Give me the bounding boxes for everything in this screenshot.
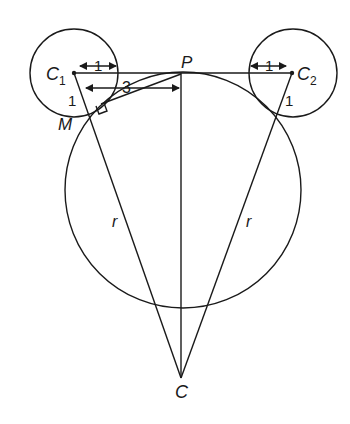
label-m: M bbox=[58, 115, 73, 134]
label-c2-radius-side: 1 bbox=[285, 92, 293, 109]
point-c2 bbox=[290, 71, 294, 75]
geometry-diagram: C1 C2 P C M 1 1 1 1 3 r r bbox=[0, 0, 350, 424]
label-c2-radius-top: 1 bbox=[265, 57, 273, 74]
line-c1-c bbox=[74, 73, 181, 378]
tangent-line-p-m bbox=[101, 74, 181, 104]
label-c1-radius-top: 1 bbox=[94, 57, 102, 74]
label-c2: C2 bbox=[297, 64, 317, 88]
label-p: P bbox=[181, 53, 193, 72]
label-r-right: r bbox=[246, 213, 252, 230]
label-c1: C1 bbox=[46, 64, 66, 88]
label-c: C bbox=[175, 382, 189, 402]
label-r-left: r bbox=[112, 213, 118, 230]
label-distance-3: 3 bbox=[122, 79, 131, 96]
line-c2-c bbox=[181, 73, 292, 378]
point-c1 bbox=[72, 71, 76, 75]
label-c1-radius-side: 1 bbox=[68, 92, 76, 109]
